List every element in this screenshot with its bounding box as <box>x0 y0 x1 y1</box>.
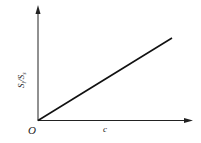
origin-label: O <box>28 124 36 136</box>
x-axis-arrow-icon <box>184 118 193 123</box>
svg-text:Si/Ss: Si/Ss <box>16 72 27 88</box>
y-axis-label: Si/Ss <box>16 72 27 88</box>
x-axis-label: c <box>103 124 107 134</box>
data-line <box>38 38 172 121</box>
chart: O c Si/Ss <box>0 0 201 143</box>
y-axis-arrow-icon <box>36 5 41 14</box>
